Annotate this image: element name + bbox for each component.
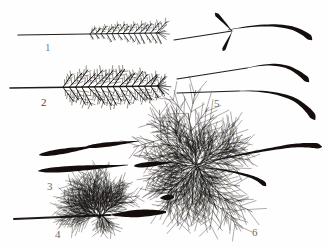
figure-label-2: 2 <box>41 96 47 108</box>
figure-label-3: 3 <box>47 180 53 192</box>
figure-label-4: 4 <box>55 228 61 240</box>
illustration-plate: 1 2 3 4 5 6 <box>0 0 328 247</box>
figure-label-1: 1 <box>45 41 51 53</box>
figure-label-5: 5 <box>214 97 220 109</box>
plate-canvas <box>0 0 328 247</box>
figure-label-6: 6 <box>252 226 258 238</box>
